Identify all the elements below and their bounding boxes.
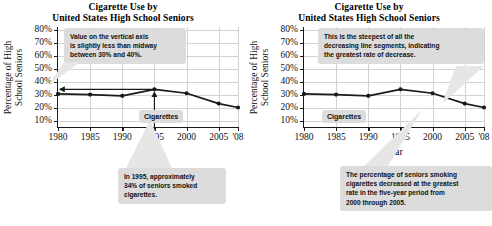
chart-panel-right: Cigarette Use by United States High Scho… bbox=[246, 0, 492, 226]
callout-leader-lines-right bbox=[246, 0, 492, 226]
callout-leader-lines-left bbox=[0, 0, 246, 226]
series-label-cigarettes-right: Cigarettes bbox=[322, 110, 366, 123]
chart-panel-left: Cigarette Use by United States High Scho… bbox=[0, 0, 246, 226]
series-label-cigarettes-left: Cigarettes bbox=[139, 110, 183, 123]
figure-container: Cigarette Use by United States High Scho… bbox=[0, 0, 492, 226]
